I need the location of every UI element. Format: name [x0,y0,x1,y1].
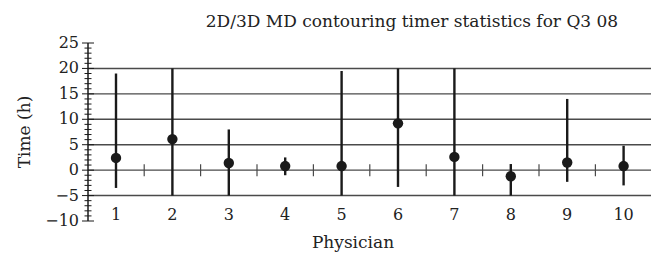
y-tick-label: −5 [55,186,79,205]
x-tick-label: 9 [562,205,572,224]
x-tick-label: 7 [449,205,459,224]
error-bars [111,68,629,195]
data-point [111,153,121,163]
chart-title: 2D/3D MD contouring timer statistics for… [206,11,618,31]
data-point [336,161,346,171]
y-axis: −10−50510152025 [45,33,94,230]
data-point [562,157,572,167]
data-point [224,158,234,168]
data-point [618,161,628,171]
y-tick-label: 15 [59,84,79,103]
x-axis-tick-labels: 12345678910 [111,205,634,224]
data-point [393,118,403,128]
x-tick-label: 3 [224,205,234,224]
y-tick-label: 20 [59,58,79,77]
data-point [506,171,516,181]
y-tick-label: 0 [69,160,79,179]
x-tick-label: 1 [111,205,121,224]
x-tick-label: 4 [280,205,290,224]
x-tick-label: 2 [167,205,177,224]
data-point [280,161,290,171]
x-axis-label: Physician [312,232,394,252]
error-bar-chart: 2D/3D MD contouring timer statistics for… [0,0,672,260]
y-axis-label: Time (h) [14,96,34,169]
x-tick-label: 10 [613,205,633,224]
x-tick-label: 6 [393,205,403,224]
x-tick-label: 8 [506,205,516,224]
y-tick-label: 25 [59,33,79,52]
y-tick-label: −10 [45,211,79,230]
y-tick-label: 5 [69,135,79,154]
x-tick-label: 5 [337,205,347,224]
data-point [449,152,459,162]
y-tick-label: 10 [59,109,79,128]
data-point [167,134,177,144]
